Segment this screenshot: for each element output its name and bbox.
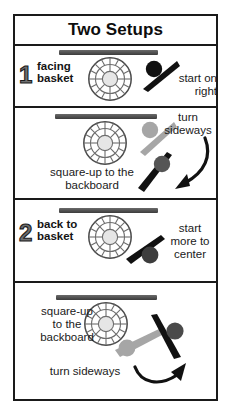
step-label-back-to-basket: back to basket bbox=[37, 219, 77, 243]
step-label-square-up-backboard: square-up to the backboard bbox=[21, 305, 113, 344]
backboard-bar bbox=[59, 208, 158, 213]
note-start-on-right: start on right bbox=[165, 72, 216, 98]
step-number-2: 2 bbox=[19, 221, 32, 245]
note-turn-sideways: turn sideways bbox=[161, 111, 215, 137]
backboard-bar bbox=[59, 50, 158, 55]
step-label-facing-basket: facing basket bbox=[37, 61, 73, 85]
basketball-net-icon bbox=[82, 120, 128, 166]
backboard-bar bbox=[56, 295, 157, 300]
panel-square-up-backboard-2: square-up to the backboard turn sideways bbox=[15, 283, 216, 399]
curved-arrow-down-left-icon bbox=[165, 136, 213, 194]
player-figure-dark bbox=[145, 313, 187, 361]
player-figure-dark bbox=[123, 232, 167, 268]
diagram-poster: Two Setups 1 facing basket bbox=[13, 14, 218, 401]
note-turn-sideways: turn sideways bbox=[29, 365, 141, 378]
backboard-bar bbox=[55, 114, 157, 119]
page-title: Two Setups bbox=[68, 20, 163, 40]
step-label-square-up-backboard: square-up to the backboard bbox=[27, 166, 157, 192]
panel-setup-2-back-to-basket: 2 back to basket bbox=[15, 200, 216, 283]
curved-arrow-up-right-icon bbox=[133, 355, 193, 389]
poster-title-bar: Two Setups bbox=[15, 16, 216, 46]
step-number-1: 1 bbox=[19, 63, 32, 87]
panel-square-up-backboard-1: square-up to the backboard turn sideways bbox=[15, 108, 216, 200]
panel-setup-1-facing-basket: 1 facing basket bbox=[15, 46, 216, 108]
basketball-net-icon bbox=[87, 56, 133, 102]
note-start-more-to-center: start more to center bbox=[163, 222, 216, 261]
